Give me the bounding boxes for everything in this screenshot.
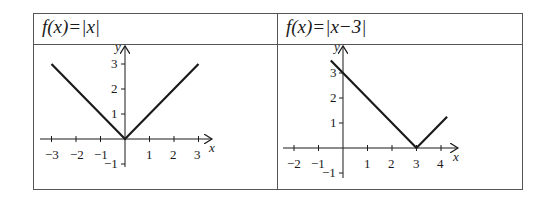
x-tick-label: 1: [146, 147, 153, 162]
x-axis-label: x: [452, 149, 459, 164]
y-tick-label: −1: [104, 156, 118, 171]
y-axis-label: y: [113, 39, 121, 54]
x-tick-label: 3: [413, 156, 420, 171]
x-tick-label: 3: [194, 147, 201, 162]
y-tick-label: 2: [111, 81, 118, 96]
x-tick-label: −3: [45, 147, 59, 162]
x-tick-label: 2: [170, 147, 177, 162]
y-axis-label: y: [332, 39, 340, 54]
y-tick-label: 3: [330, 65, 337, 80]
y-tick-label: 3: [111, 56, 118, 71]
y-ticks: [121, 64, 125, 164]
x-axis-label: x: [208, 140, 215, 155]
y-ticks: [339, 73, 343, 173]
graph-abs-x: −3 −2 −1 1 2 3 3 2 1 −1 y x: [40, 39, 215, 171]
x-tick-label: 4: [437, 156, 444, 171]
x-tick-label: 2: [388, 156, 395, 171]
y-tick-label: −1: [322, 165, 336, 180]
y-tick-label: 1: [330, 115, 337, 130]
x-tick-label: −2: [287, 156, 301, 171]
x-tick-label: 1: [364, 156, 371, 171]
y-tick-label: 1: [111, 106, 118, 121]
graphs: −3 −2 −1 1 2 3 3 2 1 −1 y x −2 −1 1 2 3 …: [0, 0, 549, 202]
y-tick-label: 2: [330, 90, 337, 105]
x-tick-label: −2: [70, 147, 84, 162]
graph-abs-x-minus-3: −2 −1 1 2 3 4 3 2 1 −1 y x: [283, 39, 459, 180]
function-curve: [331, 61, 447, 149]
